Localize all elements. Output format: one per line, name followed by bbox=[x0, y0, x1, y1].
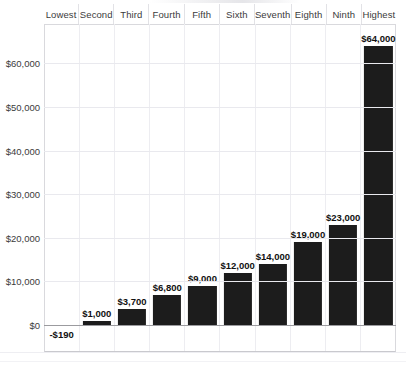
y-gridline bbox=[44, 281, 396, 282]
bar-group: $9,000 bbox=[185, 24, 220, 352]
bar-group: $64,000 bbox=[361, 24, 396, 352]
bar-group: $1,000 bbox=[79, 24, 114, 352]
y-axis-tick-label: $20,000 bbox=[0, 232, 40, 243]
bar-group: $6,800 bbox=[150, 24, 185, 352]
y-gridline bbox=[44, 107, 396, 108]
column-header-highest: Highest bbox=[362, 4, 396, 24]
column-header-fifth: Fifth bbox=[185, 4, 220, 24]
y-gridline bbox=[44, 194, 396, 195]
bar-group: $3,700 bbox=[114, 24, 149, 352]
y-axis-tick-label: $0 bbox=[0, 320, 40, 331]
top-edge-artifact bbox=[150, 0, 300, 3]
bar-value-label: $23,000 bbox=[326, 212, 360, 223]
bottom-divider-secondary bbox=[0, 361, 406, 362]
column-header-lowest: Lowest bbox=[44, 4, 79, 24]
bar-value-label: $6,800 bbox=[153, 282, 182, 293]
bar-fifth bbox=[188, 286, 216, 325]
y-axis-tick-label: $50,000 bbox=[0, 102, 40, 113]
y-gridline bbox=[44, 238, 396, 239]
bar-group: $14,000 bbox=[255, 24, 290, 352]
bar-highest bbox=[364, 46, 392, 325]
bar-value-label: $3,700 bbox=[117, 296, 146, 307]
column-header-third: Third bbox=[114, 4, 149, 24]
column-header-ninth: Ninth bbox=[327, 4, 362, 24]
bar-ninth bbox=[329, 225, 357, 325]
bar-group: -$190 bbox=[44, 24, 79, 352]
column-header-eighth: Eighth bbox=[292, 4, 327, 24]
column-header-fourth: Fourth bbox=[149, 4, 184, 24]
bar-chart: LowestSecondThirdFourthFifthSixthSeventh… bbox=[0, 0, 406, 366]
y-axis-tick-label: $40,000 bbox=[0, 145, 40, 156]
y-axis-tick-label: $60,000 bbox=[0, 58, 40, 69]
category-header-row: LowestSecondThirdFourthFifthSixthSeventh… bbox=[44, 4, 396, 25]
bar-group: $12,000 bbox=[220, 24, 255, 352]
y-axis-tick-label: $30,000 bbox=[0, 189, 40, 200]
bar-value-label: $64,000 bbox=[361, 33, 395, 44]
bars-layer: -$190$1,000$3,700$6,800$9,000$12,000$14,… bbox=[44, 24, 396, 352]
y-gridline bbox=[44, 63, 396, 64]
zero-baseline bbox=[44, 325, 396, 326]
bar-value-label: $14,000 bbox=[256, 251, 290, 262]
y-axis-tick-label: $10,000 bbox=[0, 276, 40, 287]
bottom-divider bbox=[0, 352, 406, 353]
bar-value-label: $12,000 bbox=[220, 260, 254, 271]
bar-group: $19,000 bbox=[290, 24, 325, 352]
bar-third bbox=[118, 309, 146, 325]
bar-group: $23,000 bbox=[326, 24, 361, 352]
column-header-sixth: Sixth bbox=[220, 4, 255, 24]
column-header-second: Second bbox=[79, 4, 114, 24]
bar-fourth bbox=[153, 295, 181, 325]
bar-value-label: $1,000 bbox=[82, 308, 111, 319]
column-header-seventh: Seventh bbox=[255, 4, 292, 24]
bar-eighth bbox=[294, 242, 322, 325]
y-gridline bbox=[44, 151, 396, 152]
bar-seventh bbox=[259, 264, 287, 325]
bar-value-label-negative: -$190 bbox=[49, 329, 73, 340]
